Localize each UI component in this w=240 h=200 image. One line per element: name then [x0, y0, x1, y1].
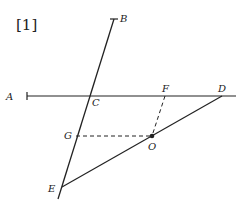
- label-o: O: [148, 141, 156, 152]
- label-e: E: [47, 183, 56, 194]
- line-b-e: [58, 19, 114, 199]
- label-d: D: [217, 83, 226, 94]
- label-g: G: [64, 130, 72, 141]
- label-c: C: [92, 97, 100, 108]
- figure-tag: [1]: [16, 16, 37, 34]
- label-b: B: [119, 13, 127, 24]
- label-a: A: [5, 91, 13, 102]
- geometry-diagram: [1] A B C D E F G O: [0, 0, 240, 200]
- label-f: F: [161, 83, 170, 94]
- point-o: [150, 134, 155, 139]
